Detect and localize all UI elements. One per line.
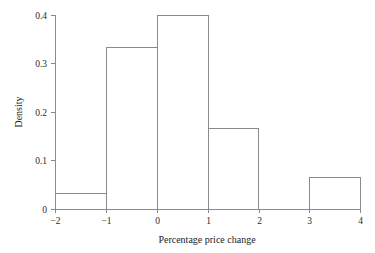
plot-canvas: 0 0.1 0.2 0.3 0.4 −2 −1 0 1 2 3 4: [0, 0, 375, 253]
histogram-figure: 0 0.1 0.2 0.3 0.4 −2 −1 0 1 2 3 4: [0, 0, 375, 253]
x-tick-label: 3: [307, 216, 312, 226]
x-tick-label: 1: [206, 216, 211, 226]
x-axis-title: Percentage price change: [158, 234, 256, 245]
x-tick-label: 0: [155, 216, 160, 226]
y-tick-label: 0.1: [35, 156, 47, 166]
x-tick-label: 2: [257, 216, 262, 226]
y-tick-label: 0.3: [35, 59, 47, 69]
y-tick-label: 0: [42, 205, 47, 215]
x-tick-label: 4: [358, 216, 363, 226]
x-tick-label: −2: [50, 216, 60, 226]
x-tick-label: −1: [101, 216, 111, 226]
y-tick-label: 0.4: [35, 11, 47, 21]
y-axis-title: Density: [13, 96, 24, 127]
y-tick-label: 0.2: [35, 108, 47, 118]
